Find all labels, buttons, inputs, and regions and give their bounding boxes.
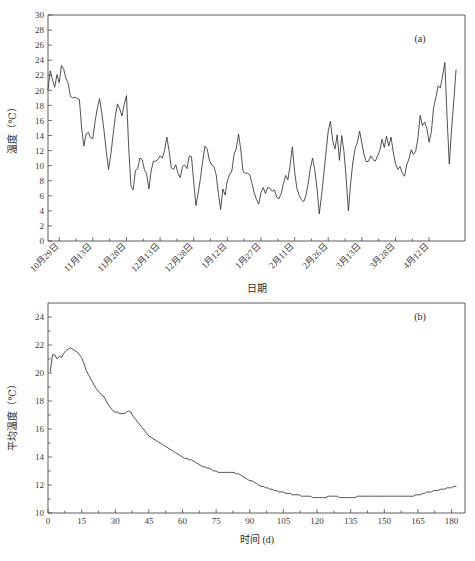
- figure-container: 024681012141618202224262830 10月29日11月13日…: [0, 0, 475, 561]
- b-x-tick-label: 150: [378, 516, 392, 526]
- panel-b-average-temperature: 1012141618202224 01530456075901051201351…: [0, 295, 475, 561]
- b-x-tick-label: 180: [445, 516, 459, 526]
- a-x-tick-label: 11月28日: [96, 241, 128, 273]
- b-x-tick-label: 30: [111, 516, 121, 526]
- a-x-tick-label: 10月29日: [28, 241, 61, 274]
- a-x-tick-label: 12月28日: [163, 241, 196, 274]
- panel-b-y-axis-title: 平均温度（℃）: [6, 379, 18, 450]
- panel-b-tag: (b): [414, 311, 426, 323]
- b-y-tick-label: 16: [35, 424, 45, 434]
- a-x-tick-label: 1月12日: [199, 241, 228, 270]
- a-x-tick-label: 11月13日: [62, 241, 94, 273]
- panel-a-axes-frame: [48, 15, 465, 241]
- a-y-tick-label: 18: [35, 101, 45, 111]
- a-y-tick-label: 2: [40, 221, 45, 231]
- a-y-tick-label: 16: [35, 116, 45, 126]
- b-y-tick-label: 20: [35, 368, 45, 378]
- b-x-tick-label: 120: [310, 516, 324, 526]
- a-y-tick-label: 22: [35, 70, 44, 80]
- panel-a-ticks: [48, 15, 429, 241]
- a-y-tick-label: 26: [35, 40, 45, 50]
- a-frame-rect: [48, 15, 465, 241]
- b-y-tick-label: 24: [35, 312, 45, 322]
- a-y-tick-label: 24: [35, 55, 45, 65]
- b-y-tick-label: 14: [35, 452, 45, 462]
- panel-b-svg: 1012141618202224 01530456075901051201351…: [0, 295, 475, 561]
- a-x-tick-label: 4月12日: [401, 241, 430, 270]
- b-x-tick-label: 135: [344, 516, 358, 526]
- panel-a-y-axis-title: 温度（℃）: [6, 102, 18, 153]
- a-x-tick-label: 2月11日: [267, 241, 296, 270]
- panel-a-series-line: [48, 62, 456, 213]
- a-y-tick-label: 10: [35, 161, 45, 171]
- panel-a-daily-temperature: 024681012141618202224262830 10月29日11月13日…: [0, 0, 475, 295]
- panel-a-x-tick-labels: 10月29日11月13日11月28日12月13日12月28日1月12日1月27日…: [28, 241, 430, 274]
- a-y-tick-label: 12: [35, 146, 44, 156]
- panel-b-x-tick-labels: 0153045607590105120135150165180: [46, 516, 459, 526]
- a-y-tick-label: 28: [35, 25, 45, 35]
- b-y-tick-label: 18: [35, 396, 45, 406]
- b-x-tick-label: 0: [46, 516, 51, 526]
- b-x-tick-label: 15: [77, 516, 87, 526]
- b-x-tick-label: 165: [411, 516, 425, 526]
- a-y-tick-label: 0: [40, 236, 45, 246]
- a-x-tick-label: 3月28日: [368, 241, 397, 270]
- panel-b-series-line: [50, 348, 456, 498]
- b-x-tick-label: 75: [212, 516, 222, 526]
- panel-b-x-axis-title: 时间 (d): [240, 533, 274, 546]
- a-y-tick-label: 4: [40, 206, 45, 216]
- b-x-tick-label: 105: [277, 516, 291, 526]
- b-x-tick-label: 45: [144, 516, 154, 526]
- panel-b-ticks: [48, 317, 452, 513]
- a-y-tick-label: 14: [35, 131, 45, 141]
- a-y-tick-label: 30: [35, 10, 45, 20]
- b-y-tick-label: 22: [35, 340, 44, 350]
- panel-a-svg: 024681012141618202224262830 10月29日11月13日…: [0, 0, 475, 295]
- b-x-tick-label: 60: [178, 516, 188, 526]
- b-y-tick-label: 12: [35, 480, 44, 490]
- a-x-tick-label: 2月26日: [300, 241, 329, 270]
- panel-a-y-tick-labels: 024681012141618202224262830: [35, 10, 45, 246]
- panel-b-y-tick-labels: 1012141618202224: [35, 312, 45, 518]
- b-x-tick-label: 90: [245, 516, 255, 526]
- b-y-tick-label: 10: [35, 508, 45, 518]
- a-y-tick-label: 6: [40, 191, 45, 201]
- a-x-tick-label: 3月13日: [334, 241, 363, 270]
- a-y-tick-label: 8: [40, 176, 45, 186]
- panel-a-x-axis-title: 日期: [247, 283, 267, 294]
- a-x-tick-label: 12月13日: [129, 241, 162, 274]
- a-x-tick-label: 1月27日: [233, 241, 262, 270]
- a-y-tick-label: 20: [35, 86, 45, 96]
- panel-a-tag: (a): [414, 33, 425, 45]
